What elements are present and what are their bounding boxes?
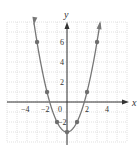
data-point [75, 120, 79, 124]
data-point [45, 90, 49, 94]
y-axis-arrow-icon [65, 22, 70, 29]
data-point [95, 40, 99, 44]
y-tick-label: 2 [60, 78, 64, 87]
y-tick-label: 4 [60, 58, 64, 67]
x-axis-label: x [131, 97, 137, 108]
x-axis-arrow-icon [122, 100, 129, 105]
x-tick-label: −2 [41, 105, 50, 114]
y-tick-label: 6 [60, 38, 64, 47]
data-point [65, 130, 69, 134]
curve-arrow-icon [32, 17, 37, 25]
axes [7, 22, 129, 145]
parabola-chart: −4−224642−2 x y 0 [0, 0, 140, 146]
x-tick-label: 2 [85, 105, 89, 114]
y-axis-label: y [63, 9, 69, 20]
x-tick-label: −4 [21, 105, 30, 114]
data-point [85, 90, 89, 94]
curve-arrow-icon [97, 21, 102, 29]
origin-label: 0 [58, 105, 62, 114]
x-tick-label: 4 [105, 105, 109, 114]
data-point [55, 120, 59, 124]
data-point [35, 40, 39, 44]
